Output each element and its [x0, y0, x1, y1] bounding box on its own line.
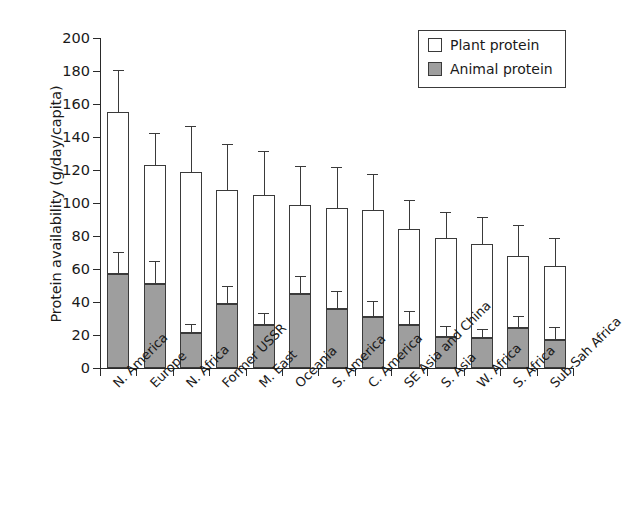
error-bar-animal	[227, 287, 228, 304]
error-bar-animal	[373, 302, 374, 317]
y-tick	[93, 71, 100, 72]
error-bar-total-cap	[331, 167, 342, 168]
y-tick-label: 160	[44, 97, 90, 112]
y-tick-label: 140	[44, 130, 90, 145]
legend-swatch-animal-icon	[428, 62, 442, 76]
bar-group[interactable]	[216, 190, 238, 368]
y-tick	[93, 335, 100, 336]
error-bar-animal-cap	[185, 324, 196, 325]
error-bar-total	[518, 226, 519, 256]
error-bar-animal	[191, 325, 192, 333]
error-bar-total-cap	[404, 200, 415, 201]
error-bar-animal	[518, 317, 519, 329]
error-bar-animal-cap	[513, 316, 524, 317]
y-tick	[93, 38, 100, 39]
error-bar-animal-cap	[549, 327, 560, 328]
bar-group[interactable]	[180, 172, 202, 368]
bar-group[interactable]	[107, 112, 129, 368]
error-bar-total	[191, 127, 192, 172]
error-bar-total-cap	[549, 238, 560, 239]
y-tick	[93, 269, 100, 270]
error-bar-animal	[155, 262, 156, 283]
error-bar-animal	[409, 312, 410, 325]
error-bar-total-cap	[295, 166, 306, 167]
y-tick	[93, 236, 100, 237]
y-tick-label: 40	[44, 295, 90, 310]
error-bar-animal	[482, 330, 483, 338]
error-bar-animal-cap	[295, 276, 306, 277]
error-bar-total-cap	[477, 217, 488, 218]
error-bar-total	[482, 218, 483, 244]
x-tick	[100, 368, 101, 376]
error-bar-total-cap	[440, 212, 451, 213]
error-bar-animal	[118, 253, 119, 274]
error-bar-total	[446, 213, 447, 238]
error-bar-total-cap	[185, 126, 196, 127]
y-tick-label: 60	[44, 262, 90, 277]
y-tick-label: 200	[44, 31, 90, 46]
y-tick-label: 20	[44, 328, 90, 343]
bar-segment-plant[interactable]	[180, 172, 202, 334]
error-bar-total	[155, 134, 156, 165]
error-bar-animal-cap	[331, 291, 342, 292]
error-bar-total-cap	[367, 174, 378, 175]
y-tick	[93, 104, 100, 105]
bar-segment-plant[interactable]	[107, 112, 129, 274]
error-bar-animal	[300, 277, 301, 294]
y-tick	[93, 302, 100, 303]
bar-segment-animal[interactable]	[107, 274, 129, 368]
error-bar-total	[118, 71, 119, 112]
y-tick-label: 100	[44, 196, 90, 211]
y-tick	[93, 203, 100, 204]
error-bar-total-cap	[258, 151, 269, 152]
y-tick	[93, 170, 100, 171]
bar-segment-plant[interactable]	[253, 195, 275, 325]
error-bar-animal-cap	[149, 261, 160, 262]
y-tick	[93, 137, 100, 138]
y-tick	[93, 368, 100, 369]
error-bar-total-cap	[113, 70, 124, 71]
error-bar-animal	[264, 314, 265, 326]
y-axis-line	[100, 38, 101, 369]
error-bar-total-cap	[222, 144, 233, 145]
error-bar-total	[264, 152, 265, 195]
error-bar-total	[227, 145, 228, 190]
y-tick-label: 80	[44, 229, 90, 244]
error-bar-total	[555, 239, 556, 265]
legend-label-plant: Plant protein	[450, 37, 540, 53]
error-bar-animal-cap	[367, 301, 378, 302]
bar-segment-plant[interactable]	[435, 238, 457, 337]
error-bar-animal-cap	[440, 326, 451, 327]
error-bar-animal-cap	[477, 329, 488, 330]
error-bar-total	[409, 201, 410, 229]
error-bar-animal-cap	[222, 286, 233, 287]
legend-item-animal-protein: Animal protein	[428, 61, 553, 77]
error-bar-total	[373, 175, 374, 210]
legend-label-animal: Animal protein	[450, 61, 553, 77]
error-bar-animal-cap	[258, 313, 269, 314]
error-bar-animal-cap	[404, 311, 415, 312]
error-bar-animal-cap	[113, 252, 124, 253]
y-tick-label: 180	[44, 64, 90, 79]
y-tick-label: 0	[44, 361, 90, 376]
chart-legend: Plant protein Animal protein	[418, 30, 566, 88]
error-bar-animal	[337, 292, 338, 309]
legend-swatch-plant-icon	[428, 38, 442, 52]
error-bar-total	[337, 168, 338, 208]
error-bar-total-cap	[149, 133, 160, 134]
error-bar-total-cap	[513, 225, 524, 226]
error-bar-total	[300, 167, 301, 205]
legend-item-plant-protein: Plant protein	[428, 37, 540, 53]
error-bar-animal	[555, 328, 556, 340]
y-tick-label: 120	[44, 163, 90, 178]
